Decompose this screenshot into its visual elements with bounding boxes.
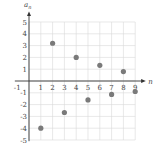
x-tick-label: 4	[74, 84, 79, 92]
x-tick-label: 6	[98, 84, 103, 92]
data-point	[121, 69, 126, 74]
x-tick-label: 3	[62, 84, 66, 92]
data-point	[74, 55, 79, 60]
x-tick-label: 1	[39, 84, 43, 92]
x-tick-label: 7	[109, 84, 113, 92]
y-tick-label: 3	[23, 42, 27, 50]
y-tick-label: -2	[20, 101, 27, 109]
y-axis-label: an	[24, 1, 31, 10]
data-point	[85, 97, 90, 102]
y-axis-arrow-icon	[27, 11, 31, 16]
data-point	[38, 126, 43, 131]
x-tick-label: 2	[50, 84, 54, 92]
y-tick-label: 5	[23, 19, 27, 27]
x-axis-label: n	[148, 78, 153, 86]
x-tick-label: 8	[121, 84, 125, 92]
data-point	[62, 110, 67, 115]
data-point	[133, 89, 138, 94]
y-tick-label: 2	[23, 54, 27, 62]
x-tick-label: 5	[86, 84, 90, 92]
y-tick-label: 1	[23, 66, 27, 74]
y-tick-label: -4	[20, 125, 27, 133]
y-tick-label: 4	[23, 30, 28, 38]
y-tick-label: -3	[20, 113, 27, 121]
data-point	[50, 41, 55, 46]
y-tick-label: -5	[20, 137, 27, 145]
y-tick-label: -1	[20, 89, 27, 97]
scatter-chart: -112345678954321-1-2-3-4-5nan	[0, 0, 157, 145]
x-axis-arrow-icon	[141, 79, 146, 83]
data-point	[97, 63, 102, 68]
data-point	[109, 92, 114, 97]
